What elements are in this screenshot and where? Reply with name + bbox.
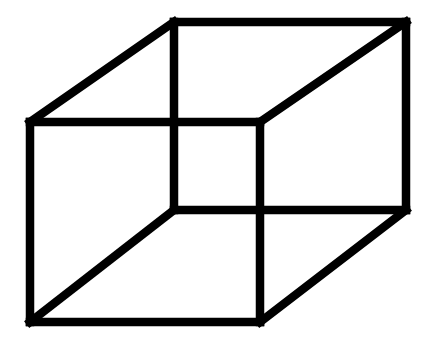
cube-edge-front_bl-back_bl xyxy=(30,210,174,322)
necker-cube-canvas xyxy=(0,0,435,347)
cube-edge-front_tl-back_tl xyxy=(30,22,174,122)
cube-edge-front_tr-back_tr xyxy=(260,22,406,122)
necker-cube-drawing xyxy=(0,0,435,347)
cube-edge-front_br-back_br xyxy=(260,210,406,322)
